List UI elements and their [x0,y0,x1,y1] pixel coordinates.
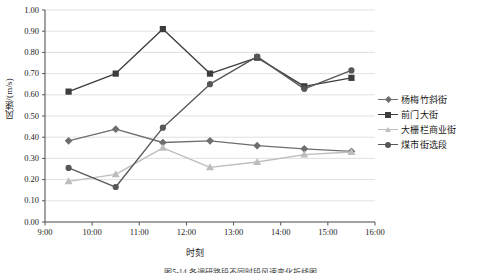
y-tick-label: 0.80 [7,47,39,57]
chart-legend: 杨梅竹斜街前门大街大栅栏商业街煤市街选段 [378,92,481,152]
data-point-marker [113,71,119,77]
y-tick-label: 0.30 [7,153,39,163]
data-point-marker [65,89,71,95]
legend-marker-icon [378,109,398,121]
legend-point-swatch [385,112,391,118]
wind-speed-line-chart-figure: 风速/(m/s) 时刻 0.000.100.200.300.400.500.60… [0,0,481,273]
x-tick-label: 15:00 [308,227,348,237]
data-point-marker [160,125,166,131]
data-point-marker [113,184,119,190]
data-point-marker [65,165,71,171]
legend-point-swatch [385,127,391,132]
x-tick-label: 10:00 [72,227,112,237]
legend-item-1[interactable]: 杨梅竹斜街 [378,92,481,107]
y-tick-label: 0.00 [7,217,39,227]
y-tick-label: 0.50 [7,111,39,121]
series-1 [65,125,356,155]
x-axis-title: 时刻 [0,246,390,259]
data-point-marker [160,26,166,32]
x-tick-label: 13:00 [214,227,254,237]
data-point-marker [207,81,213,87]
y-tick-label: 0.60 [7,89,39,99]
legend-marker-icon [378,139,398,151]
data-point-marker [254,54,260,60]
axis-lines [42,10,375,226]
y-tick-label: 0.20 [7,174,39,184]
figure-caption: 图5-14 各调研路段不同时段风速变化折线图 [0,266,481,273]
series-lines [65,26,356,190]
data-point-marker [348,67,354,73]
legend-item-4[interactable]: 煤市街选段 [378,137,481,152]
legend-label: 杨梅竹斜街 [398,93,448,106]
legend-marker-icon [378,124,398,136]
legend-label: 前门大街 [398,108,438,121]
data-point-marker [301,86,307,92]
data-point-marker [159,144,167,151]
x-tick-label: 9:00 [25,227,65,237]
data-point-marker [112,125,120,133]
legend-item-2[interactable]: 前门大街 [378,107,481,122]
x-tick-label: 11:00 [119,227,159,237]
legend-label: 大栅栏商业街 [398,123,457,136]
legend-label: 煤市街选段 [398,138,448,151]
data-point-marker [206,137,214,145]
gridlines [45,10,375,222]
y-tick-label: 0.70 [7,68,39,78]
legend-item-3[interactable]: 大栅栏商业街 [378,122,481,137]
y-tick-label: 0.10 [7,195,39,205]
data-point-marker [65,137,73,145]
data-point-marker [112,170,120,177]
y-tick-label: 1.00 [7,5,39,15]
x-tick-label: 14:00 [261,227,301,237]
y-tick-label: 0.40 [7,132,39,142]
legend-point-swatch [385,142,391,148]
x-tick-label: 16:00 [355,227,395,237]
x-tick-label: 12:00 [166,227,206,237]
data-point-marker [253,142,261,150]
legend-point-swatch [384,96,391,103]
y-tick-label: 0.90 [7,26,39,36]
data-point-marker [207,71,213,77]
legend-marker-icon [378,94,398,106]
data-point-marker [348,75,354,81]
